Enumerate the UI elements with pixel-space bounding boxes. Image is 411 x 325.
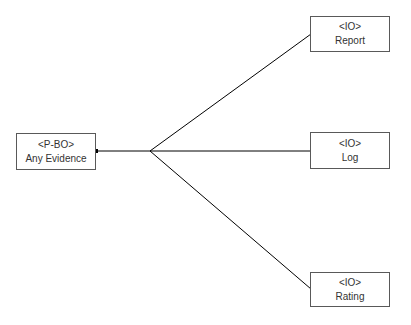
node-report: <IO> Report bbox=[310, 16, 390, 52]
node-stereotype: <IO> bbox=[339, 20, 361, 34]
node-rating: <IO> Rating bbox=[310, 272, 390, 307]
node-label: Any Evidence bbox=[25, 152, 86, 166]
node-stereotype: <IO> bbox=[339, 137, 361, 151]
node-label: Report bbox=[335, 34, 365, 48]
node-stereotype: <IO> bbox=[339, 276, 361, 290]
node-stereotype: <P-BO> bbox=[38, 138, 74, 152]
node-any-evidence: <P-BO> Any Evidence bbox=[16, 133, 96, 170]
node-log: <IO> Log bbox=[310, 132, 390, 169]
node-label: Rating bbox=[336, 290, 365, 304]
node-label: Log bbox=[342, 151, 359, 165]
